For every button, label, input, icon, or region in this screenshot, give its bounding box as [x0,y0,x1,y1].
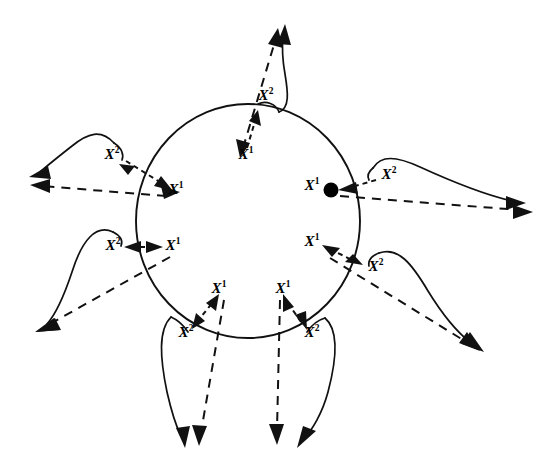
spoke-bottom-left-label-x1: X1 [211,279,227,296]
lower-left-arrowhead-left [124,241,141,253]
lower-left-solid-curve [47,230,113,324]
bottom-right-arrowhead-up [283,294,294,312]
right-dashed-shaft [340,196,520,210]
right-dashed-arrowhead-out [513,205,533,219]
spoke-right: X1 X2 [304,159,533,220]
upper-left-solid-arrowhead [29,166,51,179]
spoke-bottom-right-label-x2: X2 [304,323,320,340]
radial-transition-diagram: X2 X1 X2 X1 [0,0,559,466]
right-inner-arrowhead [338,182,358,194]
spoke-lower-left-label-x2: X2 [105,236,121,253]
spoke-right-label-x1: X1 [304,176,320,193]
spoke-right-label-x2: X2 [381,165,397,182]
lower-right-solid-curve [379,251,471,343]
bottom-right-dashed-shaft [277,300,280,430]
spoke-top-label-x2: X2 [258,86,274,103]
bottom-right-solid-arrowhead [297,426,316,448]
spoke-top: X2 X1 [236,24,291,162]
bottom-left-dashed-shaft [201,300,224,432]
spoke-upper-left: X2 X1 [29,134,184,199]
bottom-left-arrowhead-up [206,294,219,311]
spoke-lower-left-label-x1: X1 [165,236,181,253]
upper-left-x2-arrowhead [119,164,135,175]
upper-left-dashed-arrowhead-out [30,179,50,193]
spoke-lower-right-label-x1: X1 [304,232,320,249]
spoke-bottom-left: X1 X2 [161,279,226,448]
spoke-bottom-right-label-x1: X1 [275,279,291,296]
bottom-left-solid-arrowhead [176,426,190,448]
central-circle [136,104,360,338]
spoke-upper-left-label-x1: X1 [168,180,184,197]
lower-left-dashed-shaft [48,257,170,325]
bottom-left-dashed-arrowhead [192,425,207,446]
upper-left-inner-dashed-shaft [126,161,163,184]
spoke-lower-right: X1 X2 [304,232,484,352]
bottom-right-dashed-arrowhead [269,424,284,445]
lower-right-dashed-shaft [330,258,468,343]
top-inner-arrowhead [249,110,261,126]
lower-right-arrowhead-left [322,245,340,257]
figure-canvas: X2 X1 X2 X1 [0,0,559,466]
filled-state-dot [324,183,339,198]
upper-left-dashed-shaft [42,186,166,196]
spoke-lower-right-label-x2: X2 [368,257,384,274]
spoke-lower-left: X2 X1 [35,230,181,332]
lower-right-arrowhead-right [345,254,363,265]
spoke-upper-left-label-x2: X2 [104,145,120,162]
upper-left-solid-curve [40,134,114,172]
right-curve-hook [368,168,373,180]
spoke-top-label-x1: X1 [238,145,254,162]
lower-left-arrowhead-right [146,241,163,253]
spoke-bottom-left-label-x2: X2 [178,323,194,340]
